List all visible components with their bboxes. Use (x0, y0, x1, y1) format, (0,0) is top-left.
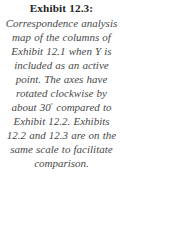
figure-caption: Exhibit 12.3: Correspondence analysis ma… (4, 0, 119, 171)
degree-symbol-icon: ◦ (51, 100, 53, 108)
figure-caption-label: Exhibit 12.3: (4, 0, 119, 15)
figure-caption-text: Correspondence analysis map of the colum… (4, 16, 119, 171)
figure-caption-text-part-1: Correspondence analysis map of the colum… (6, 17, 118, 114)
